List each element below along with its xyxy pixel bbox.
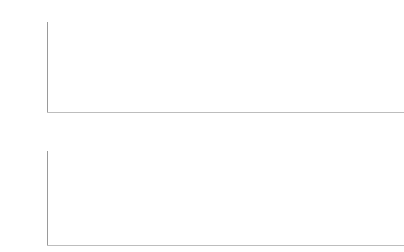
platelet-chart-panel xyxy=(0,0,404,126)
platelet-plot-area xyxy=(47,23,392,112)
platelet-x-axis-line xyxy=(47,112,404,113)
hemoglobin-plot-area xyxy=(47,152,392,245)
hemoglobin-chart-panel xyxy=(0,126,404,252)
hemoglobin-x-axis-line xyxy=(47,245,404,246)
